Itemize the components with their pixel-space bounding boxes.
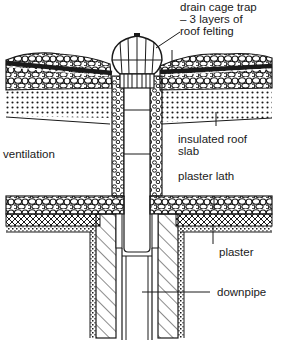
label-insulated-roof-line1: insulated roof	[178, 133, 247, 145]
label-ventilation: ventilation	[3, 148, 55, 160]
roof-gravel-left	[6, 53, 112, 90]
label-plaster-lath: plaster lath	[178, 170, 234, 182]
label-roof-felting-line2: roof felting	[180, 25, 234, 37]
roof-drain-section-diagram	[0, 0, 283, 356]
label-roof-felting-line1: – 3 layers of	[180, 13, 243, 25]
roof-gravel-right	[160, 54, 272, 91]
drain-cage-trap	[112, 33, 162, 88]
downpipe-casing	[90, 214, 184, 338]
downpipe	[122, 196, 152, 340]
label-plaster: plaster	[219, 246, 254, 258]
label-insulated-roof-line2: slab	[178, 145, 199, 157]
label-downpipe: downpipe	[217, 286, 266, 298]
label-drain-cage-trap: drain cage trap	[180, 1, 257, 13]
shaft-surround	[112, 76, 162, 196]
